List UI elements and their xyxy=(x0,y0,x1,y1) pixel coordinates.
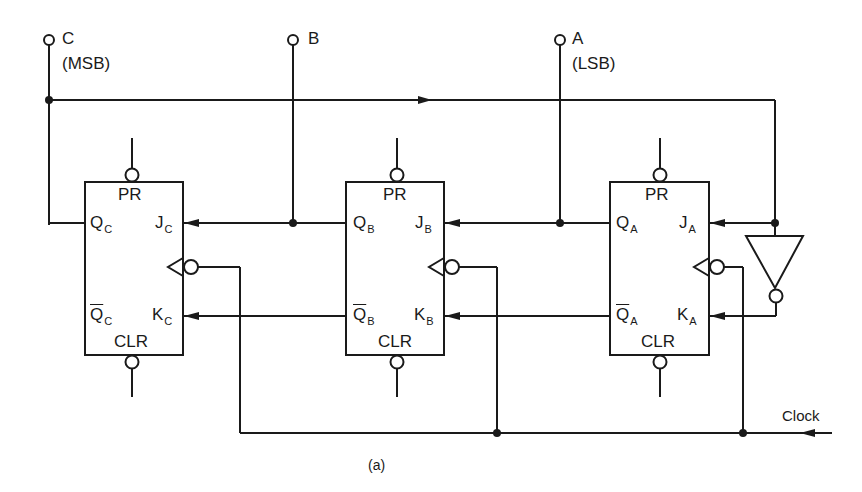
input-c-note: (MSB) xyxy=(62,55,110,72)
ff-a-preset: PR xyxy=(645,186,669,203)
q-text: Q xyxy=(90,213,103,232)
input-c-label: C xyxy=(62,30,74,47)
k-sub: C xyxy=(164,315,172,327)
input-a-label: A xyxy=(572,30,583,47)
qbar-text: Q xyxy=(90,305,103,324)
ff-c-k: KC xyxy=(152,306,172,323)
ff-a-j: JA xyxy=(679,214,696,231)
input-b-label: B xyxy=(308,30,319,47)
k-text: K xyxy=(677,305,688,324)
qbar-sub: C xyxy=(104,315,112,327)
ff-b-preset: PR xyxy=(383,186,407,203)
k-text: K xyxy=(414,305,425,324)
qbar-text: Q xyxy=(353,305,366,324)
ff-b-j: JB xyxy=(415,214,432,231)
ff-a-qbar: QA xyxy=(616,306,638,323)
q-sub: A xyxy=(630,223,637,235)
ff-c-j: JC xyxy=(155,214,172,231)
ff-c-qbar: QC xyxy=(90,306,112,323)
q-text: Q xyxy=(353,213,366,232)
ff-b-q: QB xyxy=(353,214,375,231)
circuit-wiring xyxy=(0,0,862,492)
j-sub: C xyxy=(165,223,173,235)
j-text: J xyxy=(679,213,688,232)
ff-a-k: KA xyxy=(677,306,697,323)
ff-c-preset: PR xyxy=(118,186,142,203)
ff-c-clear: CLR xyxy=(114,333,148,350)
ff-b-qbar: QB xyxy=(353,306,375,323)
ff-a-clear: CLR xyxy=(641,333,675,350)
k-text: K xyxy=(152,305,163,324)
k-sub: B xyxy=(426,315,433,327)
ff-b-k: KB xyxy=(414,306,434,323)
ff-c-q: QC xyxy=(90,214,112,231)
k-sub: A xyxy=(689,315,696,327)
j-text: J xyxy=(155,213,164,232)
clock-label: Clock xyxy=(782,408,820,423)
qbar-text: Q xyxy=(616,305,629,324)
q-sub: C xyxy=(104,223,112,235)
j-sub: B xyxy=(425,223,432,235)
qbar-sub: A xyxy=(630,315,637,327)
j-sub: A xyxy=(689,223,696,235)
ff-b-clear: CLR xyxy=(378,333,412,350)
q-sub: B xyxy=(367,223,374,235)
input-a-note: (LSB) xyxy=(572,55,615,72)
qbar-sub: B xyxy=(367,315,374,327)
q-text: Q xyxy=(616,213,629,232)
figure-caption: (a) xyxy=(368,458,385,472)
ff-a-q: QA xyxy=(616,214,638,231)
j-text: J xyxy=(415,213,424,232)
